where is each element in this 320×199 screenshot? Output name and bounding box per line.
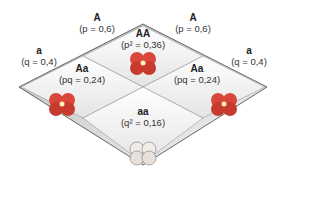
flower-icon-Aa-right (211, 93, 237, 116)
flower-icon-AA (130, 52, 156, 75)
allele-label-right: a (q = 0,4) (224, 45, 274, 67)
genotype-label-Aa-right: Aa (pq = 0,24) (167, 63, 227, 85)
genotype-label-Aa-left: Aa (pq = 0,24) (52, 63, 112, 85)
allele-label-top-right: A (p = 0,6) (168, 12, 218, 34)
genotype-label-aa: aa (q² = 0,16) (113, 106, 173, 128)
genotype-label-AA: AA (p² = 0,36) (113, 28, 173, 50)
flower-icon-Aa-left (49, 93, 75, 116)
